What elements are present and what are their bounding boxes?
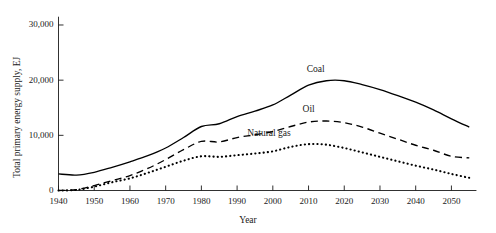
x-tick-label: 2050	[431, 197, 471, 206]
x-tick-label: 1960	[110, 197, 150, 206]
x-tick-label: 2010	[289, 197, 329, 206]
chart-figure: 010,00020,00030,000194019501960197019801…	[0, 0, 496, 233]
series-label-natural-gas: Natural gas	[247, 129, 291, 139]
series-line-natural-gas	[59, 144, 470, 191]
x-tick-label: 2020	[324, 197, 364, 206]
x-axis-title: Year	[0, 216, 496, 226]
y-tick-label: 0	[0, 186, 54, 195]
y-axis-title: Total primary energy supply, EJ	[13, 57, 23, 178]
x-tick-label: 2000	[253, 197, 293, 206]
x-tick-label: 1940	[39, 197, 79, 206]
y-tick-label: 10,000	[0, 131, 54, 140]
x-tick-label: 1990	[217, 197, 257, 206]
series-label-oil: Oil	[303, 105, 315, 115]
series-label-coal: Coal	[307, 65, 325, 75]
y-tick-label: 30,000	[0, 20, 54, 29]
x-tick-label: 2040	[396, 197, 436, 206]
x-tick-label: 2030	[360, 197, 400, 206]
x-tick-label: 1970	[146, 197, 186, 206]
x-tick-label: 1950	[74, 197, 114, 206]
y-tick-label: 20,000	[0, 76, 54, 85]
x-tick-label: 1980	[181, 197, 221, 206]
